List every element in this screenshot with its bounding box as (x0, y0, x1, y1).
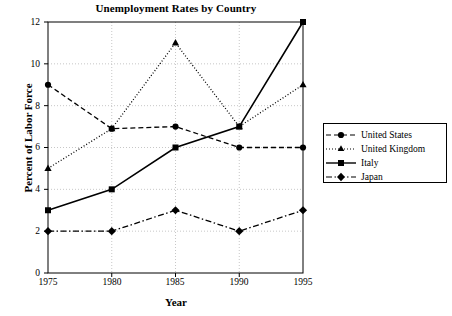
legend-label-japan: Japan (358, 172, 383, 182)
legend-swatch-italy (324, 156, 358, 170)
legend-item-united-states[interactable]: United States (324, 128, 448, 142)
legend-box: United States United Kingdom Italy Japan (323, 123, 447, 183)
legend-label-united-kingdom: United Kingdom (358, 144, 425, 154)
legend-swatch-united-kingdom (324, 142, 358, 156)
legend-swatch-united-states (324, 128, 358, 142)
legend-item-united-kingdom[interactable]: United Kingdom (324, 142, 448, 156)
legend-label-italy: Italy (358, 158, 378, 168)
legend-label-united-states: United States (358, 130, 412, 140)
axis-ticks (44, 22, 239, 277)
legend-item-italy[interactable]: Italy (324, 156, 448, 170)
legend-item-japan[interactable]: Japan (324, 170, 448, 184)
chart-figure: Unemployment Rates by Country Percent of… (0, 0, 452, 316)
legend-swatch-japan (324, 170, 358, 184)
